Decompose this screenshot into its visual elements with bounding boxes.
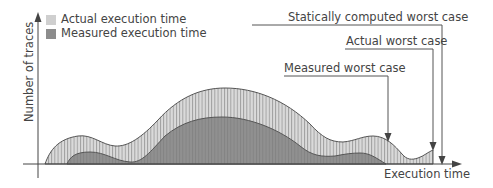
annotation-actual-worst-case: Actual worst case	[346, 36, 447, 48]
legend-label-measured: Measured execution time	[61, 28, 207, 40]
execution-time-diagram: Actual execution time Measured execution…	[0, 0, 493, 188]
annotation-static-worst-case: Statically computed worst case	[288, 12, 468, 24]
legend-swatch-actual	[46, 15, 56, 25]
annotation-measured-worst-case: Measured worst case	[284, 63, 406, 75]
y-axis-arrowhead-icon	[35, 12, 42, 22]
actual-wc-arrowhead-icon	[430, 142, 437, 151]
y-axis-label: Number of traces	[24, 22, 36, 122]
legend-label-actual: Actual execution time	[61, 14, 186, 26]
x-axis-label: Execution time	[384, 169, 470, 181]
legend-swatch-measured	[46, 29, 56, 39]
